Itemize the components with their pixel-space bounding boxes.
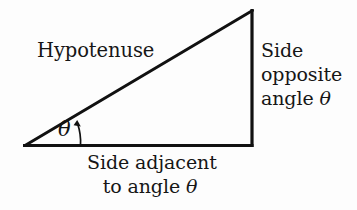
adjacent-side-label: Side adjacent to angle θ [87, 150, 213, 198]
theta-symbol-angle: θ [58, 117, 71, 141]
trig-triangle-figure: Hypotenuse Side opposite angle θ Side ad… [0, 0, 357, 210]
adjacent-angle-text: to angle [103, 175, 186, 197]
opposite-side-label-line2: opposite [261, 62, 342, 86]
opposite-side-label-line1: Side [261, 38, 342, 62]
adjacent-side-label-line2: to angle θ [87, 174, 213, 198]
opposite-angle-text: angle [261, 87, 320, 109]
theta-symbol-adjacent: θ [186, 175, 197, 197]
hypotenuse-label: Hypotenuse [37, 39, 154, 63]
adjacent-side-label-line1: Side adjacent [87, 150, 213, 174]
opposite-side-label-line3: angle θ [261, 86, 342, 110]
opposite-side-label: Side opposite angle θ [261, 38, 342, 110]
angle-arc-arrowhead [74, 120, 81, 127]
angle-arc [78, 124, 81, 146]
theta-symbol-opposite: θ [320, 87, 331, 109]
